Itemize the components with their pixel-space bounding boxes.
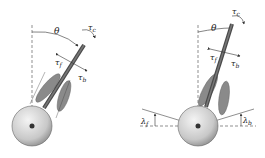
back-leg bbox=[217, 80, 232, 115]
figure-inclined-ground: θ τc τf τb λf λb bbox=[140, 7, 256, 146]
tau-c-label: τc bbox=[232, 7, 240, 17]
theta-label: θ bbox=[54, 26, 60, 36]
tau-b-label: τb bbox=[231, 59, 239, 69]
tau-f-label: τf bbox=[210, 53, 218, 64]
wheel-axle bbox=[30, 124, 35, 129]
lambda-f-label: λf bbox=[140, 117, 150, 128]
tau-f-b-arrow bbox=[58, 55, 87, 71]
tau-b-label: τb bbox=[78, 73, 86, 83]
theta-label: θ bbox=[211, 23, 217, 33]
tau-c-label: τc bbox=[88, 23, 96, 33]
figure-flat-ground: θ τc τf τb bbox=[12, 23, 96, 146]
lambda-b-label: λb bbox=[242, 116, 252, 126]
wheel-axle bbox=[196, 124, 201, 129]
tau-f-label: τf bbox=[55, 58, 63, 69]
diagram-canvas: θ τc τf τb θ bbox=[0, 0, 265, 158]
